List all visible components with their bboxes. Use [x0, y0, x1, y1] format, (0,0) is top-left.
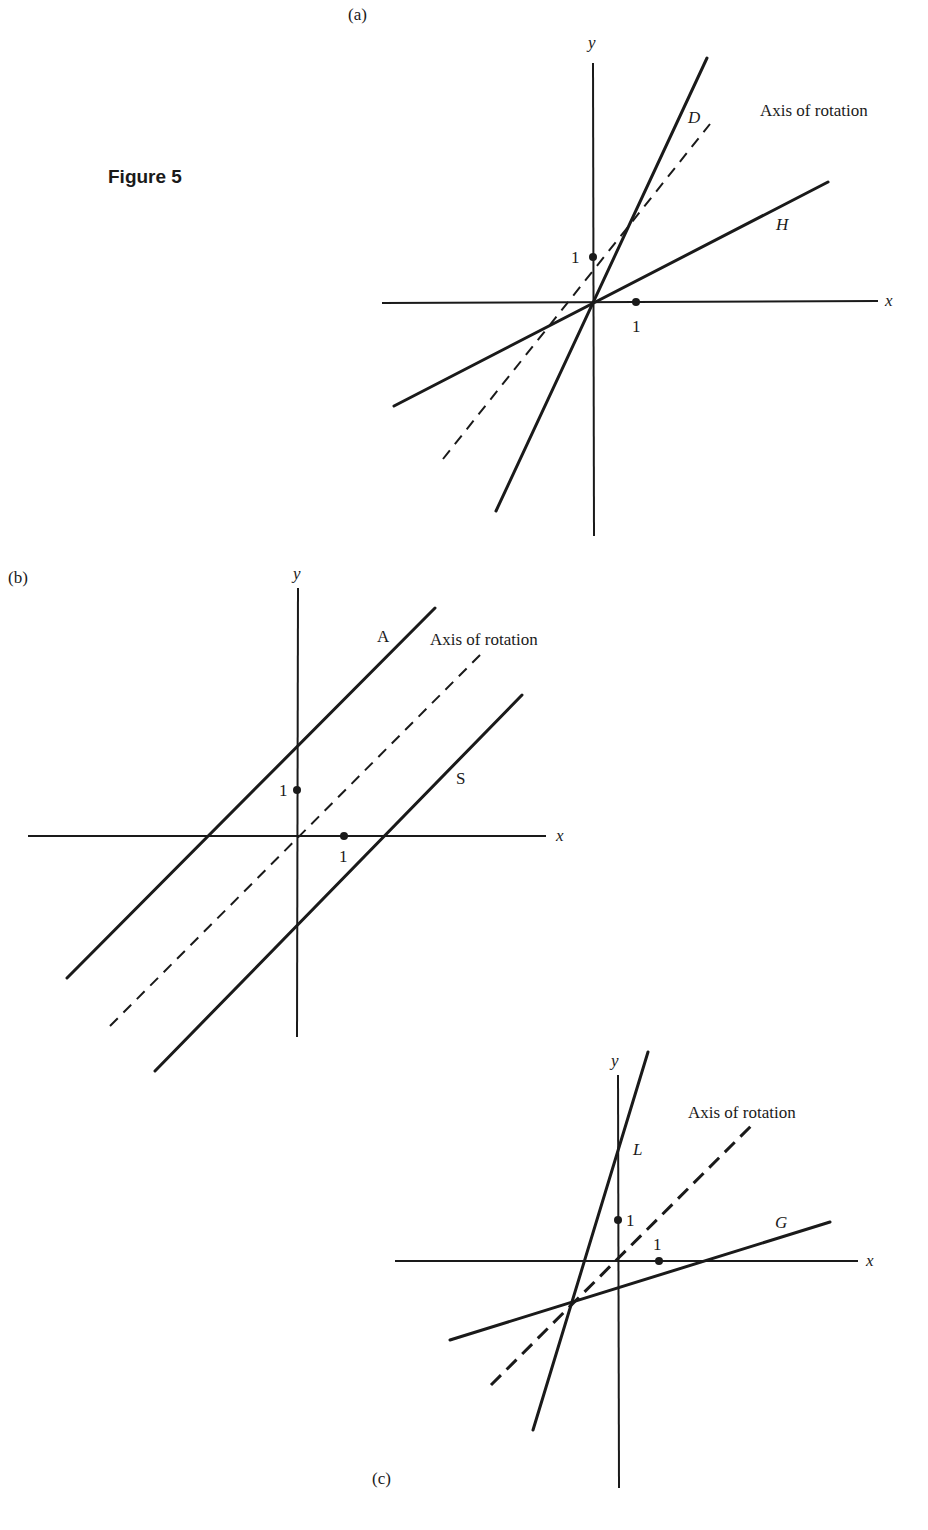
line-a [67, 608, 435, 978]
panel-label-b: (b) [8, 568, 28, 587]
unit-point-y [614, 1216, 622, 1224]
y-axis-label: y [609, 1051, 619, 1070]
panel-label-a: (a) [348, 5, 367, 24]
line-d [496, 58, 707, 511]
unit-point-x [340, 832, 348, 840]
axis-of-rotation-line [443, 124, 710, 459]
x-axis-label: x [865, 1251, 874, 1270]
x-axis-label: x [555, 826, 564, 845]
y-axis-label: y [291, 564, 301, 583]
line-label-d: D [687, 108, 701, 127]
line-label-a: A [377, 627, 390, 646]
unit-point-x [632, 298, 640, 306]
axis-of-rotation-label: Axis of rotation [760, 101, 868, 120]
line-h [394, 182, 828, 406]
line-label-l: L [632, 1140, 642, 1159]
y-axis [618, 1075, 619, 1488]
unit-label-y: 1 [571, 248, 580, 267]
unit-point-x [655, 1257, 663, 1265]
unit-label-y: 1 [626, 1211, 635, 1230]
x-axis [382, 301, 878, 303]
line-s [155, 695, 522, 1071]
line-l [533, 1052, 648, 1430]
unit-label-y: 1 [279, 781, 288, 800]
unit-point-y [589, 253, 597, 261]
panel-a: (a)xyDHAxis of rotation11 [348, 5, 893, 536]
unit-point-y [293, 786, 301, 794]
figure-5-diagram: Figure 5 (a)xyDHAxis of rotation11 (b)xy… [0, 0, 928, 1530]
y-axis-label: y [586, 33, 596, 52]
line-g [450, 1222, 830, 1340]
unit-label-x: 1 [339, 847, 348, 866]
line-label-g: G [775, 1213, 787, 1232]
unit-label-x: 1 [653, 1235, 662, 1254]
axis-of-rotation-label: Axis of rotation [430, 630, 538, 649]
axis-of-rotation-line [491, 1126, 751, 1385]
axis-of-rotation-label: Axis of rotation [688, 1103, 796, 1122]
line-label-h: H [775, 215, 790, 234]
panel-c: (c)xyLGAxis of rotation11 [372, 1051, 874, 1488]
unit-label-x: 1 [632, 317, 641, 336]
panel-b: (b)xyASAxis of rotation11 [8, 564, 564, 1071]
line-label-s: S [456, 769, 465, 788]
x-axis-label: x [884, 291, 893, 310]
figure-title: Figure 5 [108, 166, 182, 187]
panel-label-c: (c) [372, 1469, 391, 1488]
y-axis [297, 588, 298, 1037]
